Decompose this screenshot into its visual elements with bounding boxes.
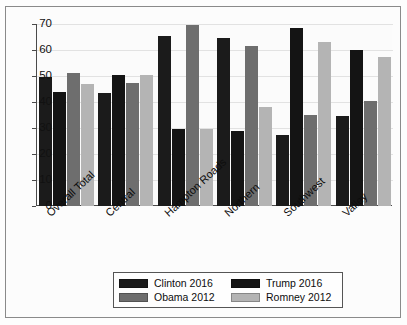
legend-label: Clinton 2016 [154,277,213,289]
bar [112,75,125,206]
legend-label: Obama 2012 [154,291,215,303]
bar-group [96,24,155,206]
y-tick-mark [32,102,36,104]
y-tick-mark [32,50,36,52]
bar [140,75,153,206]
bar [364,101,377,206]
x-axis-labels: Overall TotalCentralHampton RoadsNorther… [36,208,392,270]
legend-swatch-icon [231,279,260,288]
legend-swatch-icon [119,293,148,302]
legend-item[interactable]: Romney 2012 [231,291,337,303]
y-tick-mark [32,76,36,78]
y-tick-mark [32,180,36,182]
legend-swatch-icon [119,279,148,288]
bar [350,50,363,206]
bar-group [274,24,333,206]
legend-item[interactable]: Trump 2016 [231,277,337,289]
y-tick-mark [32,206,36,208]
legend-label: Trump 2016 [266,277,322,289]
y-tick-mark [32,24,36,26]
chart-page: 010203040506070 Overall TotalCentralHamp… [0,0,407,325]
bar [276,135,289,207]
y-tick-mark [32,128,36,130]
bar-group [215,24,274,206]
bar [336,116,349,206]
bar [378,57,391,207]
legend-label: Romney 2012 [266,291,331,303]
bar-group [334,24,393,206]
bar [158,36,171,206]
bar [98,93,111,206]
chart-legend: Clinton 2016Trump 2016Obama 2012Romney 2… [113,272,343,308]
legend-item[interactable]: Obama 2012 [119,291,225,303]
y-tick-mark [32,154,36,156]
legend-item[interactable]: Clinton 2016 [119,277,225,289]
bar [53,92,66,206]
bar [259,107,272,206]
bar [217,38,230,206]
bar [290,28,303,206]
legend-swatch-icon [231,293,260,302]
